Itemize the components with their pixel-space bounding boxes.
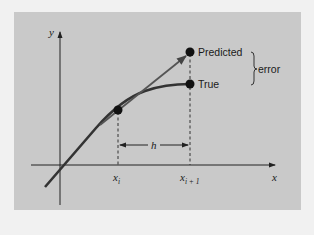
x-axis-label: x — [271, 171, 277, 183]
xi1-tick-label: xi + 1 — [179, 171, 200, 186]
xi-tick-label: xi — [112, 171, 120, 186]
error-label: error — [258, 63, 281, 75]
step-h-label: h — [151, 139, 157, 151]
true-point — [186, 80, 195, 89]
predicted-label: Predicted — [198, 46, 243, 58]
predicted-point — [186, 48, 195, 57]
xi-point — [114, 106, 123, 115]
error-brace-icon — [251, 52, 257, 85]
predicted-tangent-line — [100, 56, 186, 125]
true-label: True — [198, 78, 219, 90]
y-axis-label: y — [48, 26, 54, 38]
euler-method-diagram: y x Predicted True error h xi xi + 1 — [0, 0, 314, 235]
